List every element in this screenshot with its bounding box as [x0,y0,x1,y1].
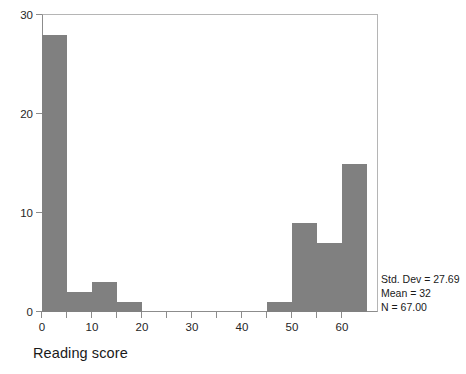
x-axis-title: Reading score [33,345,128,362]
x-axis-tick-label: 20 [122,321,162,334]
x-axis-tick-label: 40 [222,321,262,334]
mean-text: Mean = 32 [381,286,460,300]
x-axis-tick [291,312,292,318]
x-axis-tick [341,312,342,318]
histogram-bar [92,282,117,312]
histogram-bar [292,223,317,312]
x-axis-tick [191,312,192,318]
statistics-annotation: Std. Dev = 27.69 Mean = 32 N = 67.00 [381,272,460,315]
histogram-bar [42,35,67,312]
x-axis-tick [91,312,92,318]
x-axis-tick-label: 50 [272,321,312,334]
y-axis-tick [36,212,42,213]
x-axis-tick [166,312,167,318]
x-axis-tick [216,312,217,318]
x-axis-tick-label: 0 [22,321,62,334]
x-axis-tick [66,312,67,318]
x-axis-tick [41,312,42,318]
histogram-bars-layer [42,14,378,312]
x-axis-tick [241,312,242,318]
histogram-bar [267,302,292,312]
histogram-bar [117,302,142,312]
y-axis-tick [36,113,42,114]
x-axis-tick [116,312,117,318]
x-axis-tick [316,312,317,318]
y-axis-tick-label: 0 [0,306,33,318]
y-axis-tick-label: 10 [0,207,33,219]
x-axis-tick-label: 10 [72,321,112,334]
std-dev-text: Std. Dev = 27.69 [381,272,460,286]
histogram-chart: 0102030 0102030405060 Reading score Std.… [0,0,466,374]
x-axis-tick-label: 30 [172,321,212,334]
histogram-bar [342,164,367,313]
x-axis-tick-label: 60 [322,321,362,334]
x-axis-tick [266,312,267,318]
x-axis-tick [141,312,142,318]
y-axis-tick [36,14,42,15]
y-axis-tick-label: 20 [0,108,33,120]
histogram-bar [67,292,92,312]
histogram-bar [317,243,342,312]
n-text: N = 67.00 [381,300,460,314]
y-axis-tick-label: 30 [0,9,33,21]
